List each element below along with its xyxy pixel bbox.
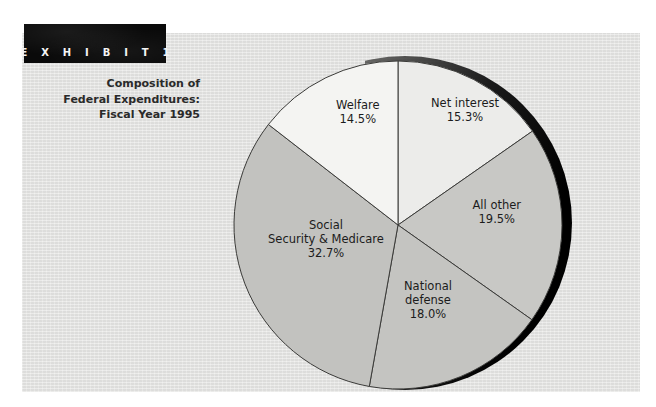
exhibit-title-line-2: Federal Expenditures: [20, 92, 200, 108]
exhibit-figure: E X H I B I T 1 Composition of Federal E… [0, 0, 656, 407]
figure-source-note [185, 400, 495, 407]
exhibit-title-line-1: Composition of [20, 76, 200, 92]
exhibit-title: Composition of Federal Expenditures: Fis… [20, 76, 200, 123]
exhibit-banner: E X H I B I T 1 [24, 24, 166, 63]
exhibit-title-line-3: Fiscal Year 1995 [20, 107, 200, 123]
pie-chart: Net interest15.3%All other19.5%Nationald… [215, 45, 605, 395]
exhibit-banner-label: E X H I B I T 1 [15, 47, 174, 58]
pie-chart-svg [215, 45, 605, 395]
pie-slice-group [234, 61, 562, 389]
